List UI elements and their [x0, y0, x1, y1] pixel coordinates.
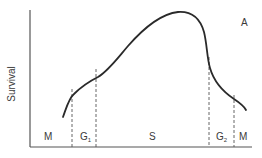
panel-label: A [241, 17, 248, 28]
survival-curve [63, 12, 246, 117]
phase-label-g1: G1 [80, 131, 92, 143]
y-axis-label: Survival [6, 66, 17, 102]
phase-label-g2-sub: 2 [224, 137, 228, 143]
phase-label-m-end: M [239, 131, 247, 142]
phase-label-s: S [149, 131, 156, 142]
survival-chart: Survival A M G1 S G2 M [0, 0, 262, 158]
phase-label-m-start: M [44, 131, 52, 142]
phase-label-g1-sub: 1 [88, 137, 92, 143]
phase-label-g2: G2 [216, 131, 228, 143]
